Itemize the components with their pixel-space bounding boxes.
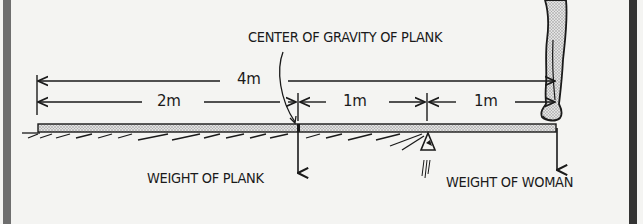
- lever-diagram: CENTER OF GRAVITY OF PLANK 4m 2m 1m 1m W…: [0, 0, 643, 224]
- weight-of-plank-label: WEIGHT OF PLANK: [147, 170, 264, 186]
- dimension-extension-lines: [37, 75, 427, 121]
- dimension-label-1m-right: 1m: [474, 92, 498, 110]
- dimension-label-4m: 4m: [237, 70, 261, 88]
- weight-of-woman-label: WEIGHT OF WOMAN: [446, 174, 573, 190]
- center-of-gravity-label: CENTER OF GRAVITY OF PLANK: [248, 29, 442, 45]
- center-of-gravity-marker: [297, 124, 300, 132]
- dimension-label-2m: 2m: [157, 92, 181, 110]
- frame-left-border: [3, 0, 11, 224]
- fulcrum-icon: [421, 133, 435, 178]
- center-of-gravity-leader: [280, 52, 295, 122]
- ground-hatching: [22, 133, 424, 150]
- frame-right-border: [629, 0, 637, 224]
- dimension-label-1m-middle: 1m: [343, 92, 367, 110]
